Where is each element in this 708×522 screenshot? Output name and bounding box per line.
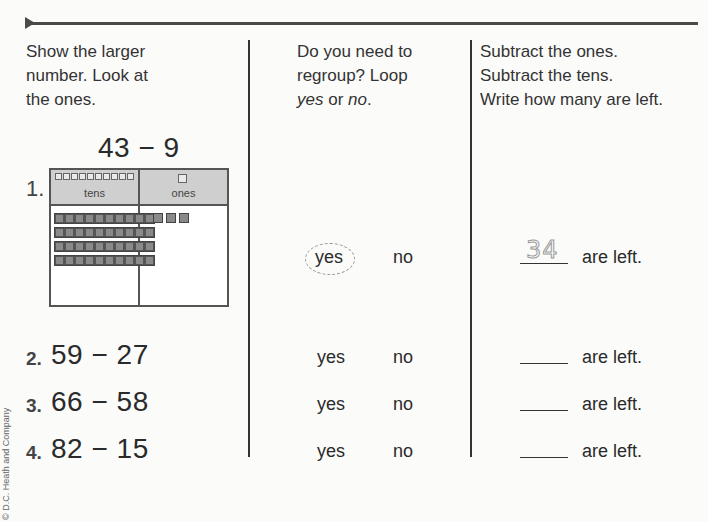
answer-blank[interactable] — [520, 363, 568, 364]
tens-label: tens — [51, 187, 138, 199]
choice-yes[interactable]: yes — [317, 441, 345, 462]
instructions-column-3: Subtract the ones. Subtract the tens. Wr… — [480, 40, 663, 112]
problem-expression: 66 − 58 — [51, 386, 149, 418]
tens-rods — [54, 213, 155, 266]
instruction-line: Subtract the tens. — [480, 64, 663, 88]
choice-yes[interactable]: yes — [317, 394, 345, 415]
instruction-line: the ones. — [26, 88, 148, 112]
problem-number: 2. — [26, 348, 42, 370]
tens-rod — [54, 241, 155, 252]
ones-units — [153, 213, 189, 223]
choice-yes[interactable]: yes — [315, 247, 343, 268]
answer-value[interactable]: 34 — [526, 236, 559, 264]
instructions-column-1: Show the larger number. Look at the ones… — [26, 40, 148, 112]
header-rule — [32, 22, 698, 25]
choice-no[interactable]: no — [393, 247, 413, 268]
tens-rod — [54, 213, 155, 224]
choice-no[interactable]: no — [393, 441, 413, 462]
tens-rod — [54, 227, 155, 238]
problem-expression: 82 − 15 — [51, 433, 149, 465]
place-value-chart: tens ones — [49, 168, 229, 307]
example-expression: 43 − 9 — [98, 132, 180, 164]
answer-blank[interactable] — [520, 457, 568, 458]
copyright-notice: © D.C. Heath and Company — [1, 408, 11, 520]
answer-blank[interactable] — [520, 410, 568, 411]
answer-suffix: are left. — [582, 394, 642, 415]
choice-yes[interactable]: yes — [317, 347, 345, 368]
tens-rod — [54, 255, 155, 266]
ones-label: ones — [140, 187, 227, 199]
ones-unit — [179, 213, 189, 223]
tens-rod-icon — [55, 173, 134, 180]
answer-suffix: are left. — [582, 441, 642, 462]
instruction-line: Show the larger — [26, 40, 148, 64]
column-divider-1 — [248, 40, 250, 457]
choice-no[interactable]: no — [393, 394, 413, 415]
ones-unit — [166, 213, 176, 223]
problem-number: 4. — [26, 442, 42, 464]
answer-suffix: are left. — [582, 247, 642, 268]
answer-line — [520, 263, 568, 264]
instruction-line: regroup? Loop — [297, 64, 412, 88]
instruction-line: Subtract the ones. — [480, 40, 663, 64]
instruction-line: Do you need to — [297, 40, 412, 64]
instruction-line: Write how many are left. — [480, 88, 663, 112]
answer-suffix: are left. — [582, 347, 642, 368]
problem-number: 3. — [26, 395, 42, 417]
problem-number: 1. — [26, 176, 44, 202]
ones-unit-icon — [178, 174, 187, 183]
instruction-line: yes or no. — [297, 88, 412, 112]
choice-no[interactable]: no — [393, 347, 413, 368]
problem-expression: 59 − 27 — [51, 339, 149, 371]
ones-unit — [153, 213, 163, 223]
column-divider-2 — [470, 40, 472, 457]
instructions-column-2: Do you need to regroup? Loop yes or no. — [297, 40, 412, 112]
instruction-line: number. Look at — [26, 64, 148, 88]
